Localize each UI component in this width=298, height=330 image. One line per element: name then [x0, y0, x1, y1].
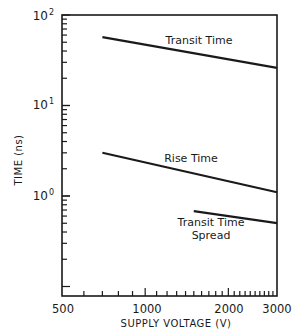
x-axis-title: SUPPLY VOLTAGE (V)	[121, 318, 232, 329]
series-lines	[102, 37, 277, 223]
label-tts-line2: Spread	[192, 229, 231, 242]
chart: 102 101 100 500 1000 2000 3000 SUPPLY VO…	[0, 0, 298, 330]
y-tick-label-100: 102	[33, 8, 54, 23]
y-axis-title: TIME (ns)	[13, 134, 24, 186]
label-tts-line1: Transit Time	[177, 216, 245, 229]
x-tick-label-1000: 1000	[132, 302, 161, 316]
label-rise-time: Rise Time	[164, 152, 218, 165]
y-tick-label-1: 100	[33, 188, 54, 203]
label-transit-time: Transit Time	[165, 34, 233, 47]
x-tick-label-2000: 2000	[214, 302, 243, 316]
x-tick-label-3000: 3000	[262, 302, 291, 316]
x-tick-label-500: 500	[52, 302, 74, 316]
y-tick-label-10: 101	[33, 97, 54, 112]
